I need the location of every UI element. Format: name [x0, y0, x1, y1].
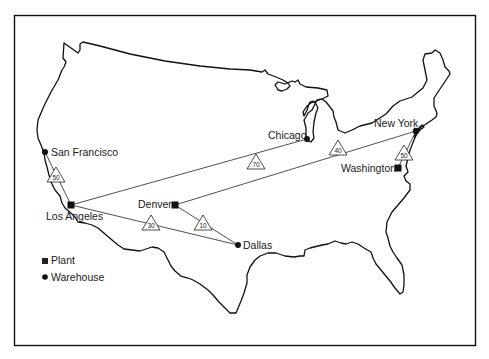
city-label-san-francisco: San Francisco [51, 146, 118, 158]
plant-marker-los-angeles [68, 202, 75, 209]
route-value-marker: 10 [194, 215, 212, 230]
legend: Plant Warehouse [42, 254, 104, 283]
city-label-dallas: Dallas [243, 239, 272, 251]
svg-text:50: 50 [400, 152, 408, 159]
plant-legend-icon [42, 258, 48, 264]
svg-text:30: 30 [147, 222, 155, 229]
svg-text:70: 70 [252, 161, 260, 168]
city-label-denver: Denver [138, 198, 172, 210]
route-value-marker: 50 [395, 145, 413, 160]
city-label-los-angeles: Los Angeles [46, 210, 103, 222]
distribution-map: 50 70 30 10 40 50 San Francisco Los Ange… [0, 0, 489, 359]
svg-text:40: 40 [334, 147, 342, 154]
route-value-marker: 40 [329, 140, 347, 155]
city-label-chicago: Chicago [268, 129, 307, 141]
route-value-marker: 70 [247, 154, 265, 169]
plant-marker-denver [172, 202, 179, 209]
warehouse-marker-san-francisco [42, 149, 48, 155]
warehouse-legend-icon [42, 274, 48, 280]
svg-text:10: 10 [199, 222, 207, 229]
svg-text:50: 50 [52, 174, 60, 181]
warehouse-marker-dallas [235, 242, 241, 248]
legend-warehouse-label: Warehouse [51, 271, 104, 283]
city-label-washington: Washington [341, 162, 396, 174]
route-value-marker: 50 [47, 167, 65, 182]
legend-plant-label: Plant [51, 254, 75, 266]
city-label-new-york: New York [374, 117, 419, 129]
